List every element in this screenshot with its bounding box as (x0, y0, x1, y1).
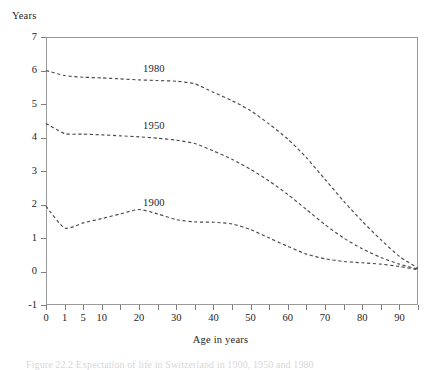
x-axis-tick-label: 40 (200, 313, 226, 324)
y-axis-title: Years (12, 10, 36, 21)
x-axis-tick (381, 305, 382, 310)
x-axis-tick (83, 305, 84, 310)
plot-area: -101234567015102030405060708090198019501… (46, 37, 418, 305)
y-axis-tick (41, 71, 46, 72)
y-axis-tick-label: 0 (9, 266, 37, 277)
x-axis-tick (176, 305, 177, 310)
y-axis-tick-label: 1 (9, 233, 37, 244)
x-axis-tick-label: 70 (312, 313, 338, 324)
x-axis-tick (362, 305, 363, 310)
y-axis-tick-label: 5 (9, 99, 37, 110)
y-axis-tick (41, 37, 46, 38)
x-axis-tick (269, 305, 270, 310)
series-label-1950: 1950 (143, 120, 165, 131)
series-line-1950 (46, 123, 418, 269)
x-axis-tick (344, 305, 345, 310)
y-axis-tick-label: 3 (9, 166, 37, 177)
x-axis-tick-label: 20 (126, 313, 152, 324)
series-label-1900: 1900 (143, 197, 165, 208)
x-axis-tick-label: 80 (349, 313, 375, 324)
x-axis-tick (251, 305, 252, 310)
y-axis-tick (41, 205, 46, 206)
x-axis-tick (399, 305, 400, 310)
y-axis-tick-label: 6 (9, 65, 37, 76)
y-axis-tick-label: 7 (9, 32, 37, 43)
series-curves (46, 37, 418, 305)
x-axis-tick (288, 305, 289, 310)
x-axis-tick (102, 305, 103, 310)
y-axis-tick (41, 171, 46, 172)
y-axis-tick-label: 2 (9, 199, 37, 210)
y-axis-tick (41, 272, 46, 273)
x-axis-tick (46, 305, 47, 310)
x-axis-tick (213, 305, 214, 310)
figure-caption: Figure 22.2 Expectation of life in Switz… (26, 359, 416, 370)
x-axis-tick (232, 305, 233, 310)
series-line-1900 (46, 206, 418, 270)
x-axis-tick-label: 10 (89, 313, 115, 324)
series-line-1980 (46, 71, 418, 269)
x-axis-tick-label: 50 (238, 313, 264, 324)
x-axis-tick-label: 60 (275, 313, 301, 324)
x-axis-tick-label: 90 (386, 313, 412, 324)
x-axis-tick (158, 305, 159, 310)
x-axis-tick (120, 305, 121, 310)
x-axis-tick (306, 305, 307, 310)
x-axis-tick (418, 305, 419, 310)
y-axis-tick (41, 138, 46, 139)
series-label-1980: 1980 (143, 63, 165, 74)
y-axis-tick (41, 104, 46, 105)
x-axis-tick (325, 305, 326, 310)
y-axis-tick-label: -1 (9, 300, 37, 311)
x-axis-tick (139, 305, 140, 310)
x-axis-tick (65, 305, 66, 310)
x-axis-tick-label: 30 (163, 313, 189, 324)
x-axis-tick (195, 305, 196, 310)
x-axis-title: Age in years (0, 334, 441, 345)
y-axis-tick-label: 4 (9, 132, 37, 143)
y-axis-tick (41, 238, 46, 239)
